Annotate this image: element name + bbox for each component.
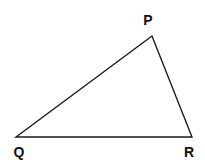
triangle-diagram: P Q R — [0, 0, 205, 162]
vertex-label-q: Q — [14, 144, 25, 160]
triangle-pqr — [16, 36, 192, 137]
vertex-label-p: P — [143, 12, 152, 28]
vertex-label-r: R — [184, 144, 194, 160]
